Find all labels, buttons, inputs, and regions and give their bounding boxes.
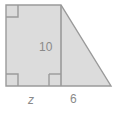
height-label: 10 <box>39 41 52 53</box>
trapezoid-diagram-svg <box>0 0 118 115</box>
triangle-base-label: 6 <box>70 93 77 105</box>
geometry-figure: 10 z 6 <box>0 0 118 115</box>
rectangle-base-label: z <box>28 94 34 106</box>
